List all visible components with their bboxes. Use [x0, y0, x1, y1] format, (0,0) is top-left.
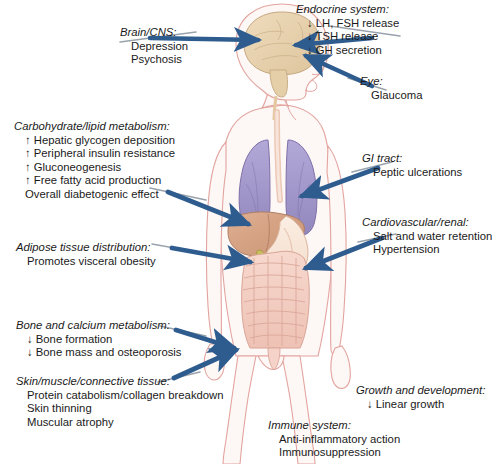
- callout-carbohydrate-lipid-metabolism-line-3: ↑ Free fatty acid production: [14, 174, 175, 188]
- callout-brain-cns-line-1: Psychosis: [120, 53, 188, 67]
- callout-immune-system: Immune system: Anti-inflammatory action …: [268, 419, 400, 460]
- callout-adipose-tissue-distribution: Adipose tissue distribution: Promotes vi…: [16, 241, 156, 268]
- callout-endocrine-system-line-1: ↓ TSH release: [296, 30, 399, 44]
- callout-immune-system-title: Immune system:: [268, 419, 400, 433]
- callout-endocrine-system: Endocrine system: ↓ LH, FSH release ↓ TS…: [296, 3, 399, 57]
- callout-eye-line-0: Glaucoma: [360, 89, 423, 103]
- callout-cardiovascular-renal-title: Cardiovascular/renal:: [362, 216, 492, 230]
- callout-gi-tract-title: GI tract:: [362, 152, 462, 166]
- callout-adipose-tissue-distribution-line-0: Promotes visceral obesity: [16, 255, 156, 269]
- callout-skin-muscle-connective-tissue: Skin/muscle/connective tissue: Protein c…: [16, 375, 224, 429]
- callout-bone-and-calcium-metabolism-line-1: ↓ Bone mass and osteoporosis: [16, 346, 181, 360]
- callout-growth-and-development-title: Growth and development:: [356, 384, 485, 398]
- callout-carbohydrate-lipid-metabolism: Carbohydrate/lipid metabolism: ↑ Hepatic…: [14, 120, 175, 202]
- callout-skin-muscle-connective-tissue-title: Skin/muscle/connective tissue:: [16, 375, 224, 389]
- callout-skin-muscle-connective-tissue-line-0: Protein catabolism/collagen breakdown: [16, 389, 224, 403]
- callout-eye-title: Eye:: [360, 75, 423, 89]
- callout-skin-muscle-connective-tissue-line-2: Muscular atrophy: [16, 416, 224, 430]
- callout-gi-tract-line-0: Peptic ulcerations: [362, 166, 462, 180]
- callout-brain-cns-title: Brain/CNS:: [120, 26, 188, 40]
- callout-endocrine-system-line-0: ↓ LH, FSH release: [296, 17, 399, 31]
- callout-immune-system-line-0: Anti-inflammatory action: [268, 433, 400, 447]
- callout-endocrine-system-title: Endocrine system:: [296, 3, 399, 17]
- callout-bone-and-calcium-metabolism-line-0: ↓ Bone formation: [16, 333, 181, 347]
- callout-immune-system-line-1: Immunosuppression: [268, 446, 400, 460]
- callout-growth-and-development: Growth and development: ↓ Linear growth: [356, 384, 485, 411]
- callout-brain-cns: Brain/CNS: Depression Psychosis: [120, 26, 188, 67]
- callout-cardiovascular-renal-line-1: Hypertension: [362, 243, 492, 257]
- callout-carbohydrate-lipid-metabolism-line-4: Overall diabetogenic effect: [14, 188, 175, 202]
- callout-cardiovascular-renal-line-0: Salt and water retention: [362, 230, 492, 244]
- callout-brain-cns-line-0: Depression: [120, 40, 188, 54]
- callout-bone-and-calcium-metabolism-title: Bone and calcium metabolism:: [16, 319, 181, 333]
- callout-carbohydrate-lipid-metabolism-line-1: ↑ Peripheral insulin resistance: [14, 147, 175, 161]
- callout-gi-tract: GI tract: Peptic ulcerations: [362, 152, 462, 179]
- callout-adipose-tissue-distribution-title: Adipose tissue distribution:: [16, 241, 156, 255]
- callout-endocrine-system-line-2: ↓ GH secretion: [296, 44, 399, 58]
- callout-eye: Eye: Glaucoma: [360, 75, 423, 102]
- callout-cardiovascular-renal: Cardiovascular/renal: Salt and water ret…: [362, 216, 492, 257]
- glucocorticoid-effects-diagram: Brain/CNS: Depression Psychosis Endocrin…: [0, 0, 496, 464]
- callout-growth-and-development-line-0: ↓ Linear growth: [356, 398, 485, 412]
- callout-carbohydrate-lipid-metabolism-line-0: ↑ Hepatic glycogen deposition: [14, 134, 175, 148]
- callout-carbohydrate-lipid-metabolism-line-2: ↑ Gluconeogenesis: [14, 161, 175, 175]
- callout-skin-muscle-connective-tissue-line-1: Skin thinning: [16, 402, 224, 416]
- callout-bone-and-calcium-metabolism: Bone and calcium metabolism: ↓ Bone form…: [16, 319, 181, 360]
- callout-carbohydrate-lipid-metabolism-title: Carbohydrate/lipid metabolism:: [14, 120, 175, 134]
